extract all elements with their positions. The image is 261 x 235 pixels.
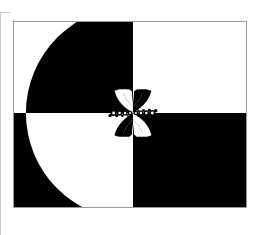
quadrant-top-right bbox=[133, 22, 246, 113]
quadrant-bottom-right bbox=[133, 113, 246, 207]
figure-frame bbox=[13, 21, 247, 208]
page-rule-left-icon bbox=[0, 12, 1, 235]
page-rule-top-icon bbox=[0, 12, 10, 13]
fractal-figure-canvas bbox=[14, 22, 246, 207]
page-root bbox=[0, 0, 261, 235]
